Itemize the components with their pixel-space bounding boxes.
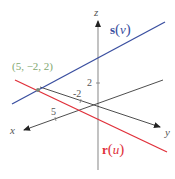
intersection-label: (5, −2, 2) xyxy=(12,60,53,73)
z-axis xyxy=(96,21,100,170)
x-tick-label: 5 xyxy=(51,106,56,117)
x-tick-5 xyxy=(55,117,56,121)
y-axis-label: y xyxy=(164,126,170,138)
line-s-label-close: ) xyxy=(126,21,131,38)
y-axis xyxy=(40,87,160,127)
diagram-canvas: z y x 2 -2 5 (5, −2, 2) s(v) r(u) xyxy=(0,0,175,179)
x-axis-label: x xyxy=(9,124,15,136)
y-tick-neg2 xyxy=(80,99,81,103)
line-s-label: s(v) xyxy=(110,21,131,38)
line-r-label-close: ) xyxy=(119,141,124,158)
intersection-point xyxy=(36,88,40,92)
line-r-label: r(u) xyxy=(102,141,124,158)
y-tick-label: -2 xyxy=(73,88,81,99)
z-tick-label: 2 xyxy=(87,77,92,88)
z-axis-label: z xyxy=(93,6,99,18)
